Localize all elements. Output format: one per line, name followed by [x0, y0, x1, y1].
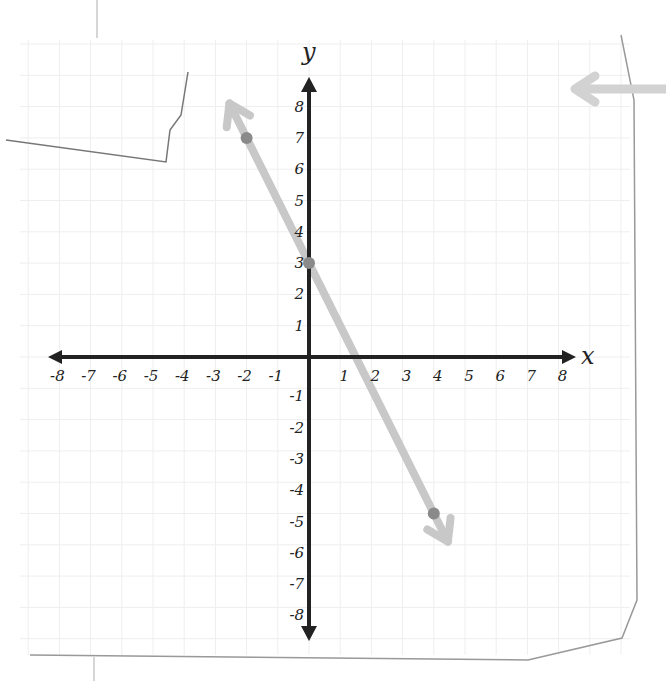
paper-outline: [6, 0, 637, 681]
x-tick-label: -5: [144, 369, 159, 384]
y-tick-label: -6: [289, 545, 304, 560]
x-tick-label: 7: [527, 369, 537, 384]
x-tick-label: 5: [464, 369, 474, 384]
x-tick-label: 8: [558, 369, 568, 384]
data-point: [241, 132, 253, 144]
background-grid: [20, 40, 630, 655]
x-tick-label: -7: [81, 369, 96, 384]
y-tick-label: 8: [294, 99, 304, 114]
x-tick-label: 6: [495, 369, 505, 384]
data-point: [303, 257, 315, 269]
axes: [48, 77, 576, 641]
x-tick-label: -4: [175, 369, 190, 384]
x-tick-label: 1: [339, 369, 349, 384]
y-tick-label: 1: [294, 318, 304, 333]
x-tick-label: 2: [371, 369, 381, 384]
y-tick-label: 3: [294, 256, 304, 271]
x-tick-label: -2: [237, 369, 252, 384]
y-tick-label: 7: [294, 130, 304, 145]
x-tick-label: -6: [112, 369, 127, 384]
y-tick-label: 4: [294, 224, 304, 239]
y-tick-label: -8: [289, 608, 304, 623]
y-axis-label: y: [302, 40, 316, 64]
x-axis-label: x: [581, 344, 595, 368]
x-tick-label: -8: [50, 369, 65, 384]
y-tick-label: -4: [289, 483, 304, 498]
x-tick-label: 4: [433, 369, 443, 384]
y-tick-label: -2: [289, 420, 304, 435]
x-tick-label: -1: [268, 369, 283, 384]
x-tick-label: 3: [402, 369, 412, 384]
paper-right-edge: [30, 35, 637, 660]
chart-canvas: [0, 0, 666, 681]
torn-paper-scrap: [6, 72, 188, 162]
y-tick-label: 6: [294, 162, 304, 177]
x-tick-label: -3: [206, 369, 221, 384]
graph-paper: -8-7-6-5-4-3-2-112345678 87654321-1-2-3-…: [0, 0, 666, 681]
y-tick-label: -5: [289, 514, 304, 529]
y-tick-label: 5: [294, 193, 304, 208]
y-tick-label: 2: [294, 287, 304, 302]
data-point: [428, 508, 440, 520]
y-tick-label: -7: [289, 577, 304, 592]
y-tick-label: -3: [289, 451, 304, 466]
y-tick-label: -1: [289, 389, 304, 404]
